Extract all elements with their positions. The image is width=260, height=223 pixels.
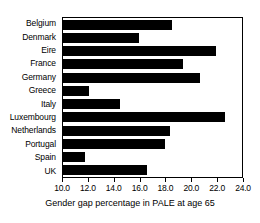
category-label-denmark: Denmark [22,33,59,42]
tick-mark [114,178,115,182]
tick-label: 12.0 [80,183,96,193]
bar-row [63,86,242,96]
tick-mark [217,178,218,182]
bar-france [63,59,183,69]
category-label-france: France [30,59,59,68]
bar-chart: Belgium Denmark Eire France Germany Gree… [0,0,260,223]
bar-row [63,20,242,30]
bar-eire [63,46,216,56]
bar-spain [63,152,85,162]
bar-germany [63,73,200,83]
tick-mark [140,178,141,182]
bars-container [63,18,242,177]
tick-mark [191,178,192,182]
bar-netherlands [63,126,170,136]
tick-mark [62,178,63,182]
bar-row [63,139,242,149]
tick-label: 22.0 [209,183,225,193]
category-label-portugal: Portugal [25,140,59,149]
tick-label: 24.0 [235,183,251,193]
bar-row [63,152,242,162]
category-label-italy: Italy [41,100,59,109]
bar-row [63,73,242,83]
tick-mark [165,178,166,182]
tick-label: 14.0 [106,183,122,193]
category-label-greece: Greece [29,86,59,95]
bar-row [63,112,242,122]
plot-area [62,17,243,178]
bar-row [63,126,242,136]
category-label-germany: Germany [22,73,59,82]
bar-row [63,99,242,109]
tick-label: 10.0 [54,183,70,193]
bar-row [63,165,242,175]
category-label-spain: Spain [35,153,59,162]
tick-mark [243,178,244,182]
x-axis-title: Gender gap percentage in PALE at age 65 [0,198,260,209]
x-axis-tick-labels: 10.012.014.016.018.020.022.024.0 [62,183,243,195]
tick-label: 16.0 [132,183,148,193]
bar-belgium [63,20,172,30]
bar-portugal [63,139,165,149]
tick-label: 18.0 [158,183,174,193]
bar-denmark [63,33,139,43]
category-label-belgium: Belgium [26,19,59,28]
tick-mark [88,178,89,182]
y-axis-category-labels: Belgium Denmark Eire France Germany Gree… [0,17,59,178]
category-label-luxembourg: Luxembourg [10,113,59,122]
tick-label: 20.0 [183,183,199,193]
bar-uk [63,165,147,175]
category-label-eire: Eire [41,46,59,55]
category-label-netherlands: Netherlands [11,126,59,135]
x-axis-tick-marks [62,178,243,182]
category-label-uk: UK [44,167,59,176]
bar-row [63,59,242,69]
bar-luxembourg [63,112,225,122]
bar-row [63,46,242,56]
bar-greece [63,86,89,96]
bar-italy [63,99,120,109]
bar-row [63,33,242,43]
